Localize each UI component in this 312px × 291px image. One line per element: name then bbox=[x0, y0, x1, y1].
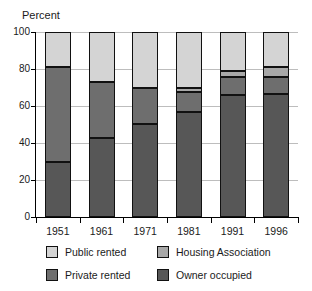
x-axis-tick-label: 1951 bbox=[36, 226, 80, 237]
y-axis-tick-label: 80 bbox=[4, 64, 30, 74]
y-axis-tick-label: 40 bbox=[4, 138, 30, 148]
x-axis-tick bbox=[254, 218, 255, 223]
y-axis-tick bbox=[31, 143, 36, 144]
gridline bbox=[36, 143, 298, 144]
x-axis-tick-label: 1996 bbox=[254, 226, 298, 237]
x-axis-tick bbox=[36, 218, 37, 223]
legend-item-housing-association: Housing Association bbox=[157, 243, 271, 261]
y-axis-tick bbox=[31, 106, 36, 107]
bar-segment-owner-occupied-1971[interactable] bbox=[133, 124, 157, 217]
x-axis-tick bbox=[167, 218, 168, 223]
bar-segment-private-rented-1961[interactable] bbox=[90, 82, 114, 138]
legend-item-private-rented: Private rented bbox=[46, 266, 130, 284]
y-axis-tick bbox=[31, 32, 36, 33]
y-axis-tick bbox=[31, 180, 36, 181]
legend-row-2: Private rented Owner occupied bbox=[46, 266, 298, 286]
legend-label-owner-occupied: Owner occupied bbox=[176, 269, 252, 281]
bar-segment-public-rented-1951[interactable] bbox=[46, 32, 70, 67]
x-axis-tick bbox=[211, 218, 212, 223]
bar-segment-private-rented-1996[interactable] bbox=[264, 77, 288, 94]
chart-legend: Public rented Housing Association Privat… bbox=[46, 243, 298, 287]
legend-swatch-private-rented bbox=[46, 269, 58, 281]
legend-swatch-public-rented bbox=[46, 246, 58, 258]
bar-segment-private-rented-1971[interactable] bbox=[133, 88, 157, 123]
stacked-bar-chart: Percent 020406080100 Public rented Housi… bbox=[0, 0, 312, 291]
x-axis-tick bbox=[80, 218, 81, 223]
bar-segment-private-rented-1991[interactable] bbox=[221, 77, 245, 95]
legend-label-private-rented: Private rented bbox=[65, 269, 130, 281]
legend-row-1: Public rented Housing Association bbox=[46, 243, 298, 263]
x-axis-tick-label: 1971 bbox=[123, 226, 167, 237]
legend-label-housing-association: Housing Association bbox=[176, 246, 271, 258]
bar-segment-owner-occupied-1996[interactable] bbox=[264, 94, 288, 217]
bar-1961[interactable] bbox=[89, 32, 115, 217]
gridline bbox=[36, 69, 298, 70]
x-axis-tick-label: 1991 bbox=[211, 226, 255, 237]
bar-segment-public-rented-1971[interactable] bbox=[133, 32, 157, 88]
bar-segment-public-rented-1996[interactable] bbox=[264, 32, 288, 67]
bar-segment-public-rented-1981[interactable] bbox=[177, 32, 201, 88]
bar-segment-owner-occupied-1991[interactable] bbox=[221, 95, 245, 217]
x-axis-tick-label: 1981 bbox=[167, 226, 211, 237]
legend-swatch-housing-association bbox=[157, 246, 169, 258]
bar-segment-owner-occupied-1981[interactable] bbox=[177, 112, 201, 217]
plot-area bbox=[36, 32, 298, 217]
legend-swatch-owner-occupied bbox=[157, 269, 169, 281]
bar-segment-housing-association-1996[interactable] bbox=[264, 67, 288, 77]
y-axis-tick-label: 100 bbox=[4, 27, 30, 37]
bar-segment-owner-occupied-1951[interactable] bbox=[46, 162, 70, 217]
legend-label-public-rented: Public rented bbox=[65, 246, 126, 258]
y-axis-tick bbox=[31, 69, 36, 70]
bar-1981[interactable] bbox=[176, 32, 202, 217]
y-axis-tick-label: 60 bbox=[4, 101, 30, 111]
bar-segment-public-rented-1991[interactable] bbox=[221, 32, 245, 71]
x-axis-tick bbox=[298, 218, 299, 223]
bar-segment-owner-occupied-1961[interactable] bbox=[90, 138, 114, 217]
y-axis-tick-label: 0 bbox=[4, 212, 30, 222]
bar-1971[interactable] bbox=[132, 32, 158, 217]
bar-segment-housing-association-1981[interactable] bbox=[177, 88, 201, 92]
bar-segment-private-rented-1981[interactable] bbox=[177, 92, 201, 112]
y-axis-labels: 020406080100 bbox=[0, 0, 30, 291]
bar-segment-private-rented-1951[interactable] bbox=[46, 67, 70, 162]
bar-1996[interactable] bbox=[263, 32, 289, 217]
gridline bbox=[36, 106, 298, 107]
legend-item-owner-occupied: Owner occupied bbox=[157, 266, 252, 284]
bar-segment-housing-association-1991[interactable] bbox=[221, 71, 245, 77]
bar-segment-public-rented-1961[interactable] bbox=[90, 32, 114, 82]
bar-1991[interactable] bbox=[220, 32, 246, 217]
x-axis-tick-label: 1961 bbox=[80, 226, 124, 237]
gridline bbox=[36, 180, 298, 181]
x-axis-tick bbox=[123, 218, 124, 223]
legend-item-public-rented: Public rented bbox=[46, 243, 126, 261]
y-axis-tick-label: 20 bbox=[4, 175, 30, 185]
bar-1951[interactable] bbox=[45, 32, 71, 217]
gridline bbox=[36, 32, 298, 33]
